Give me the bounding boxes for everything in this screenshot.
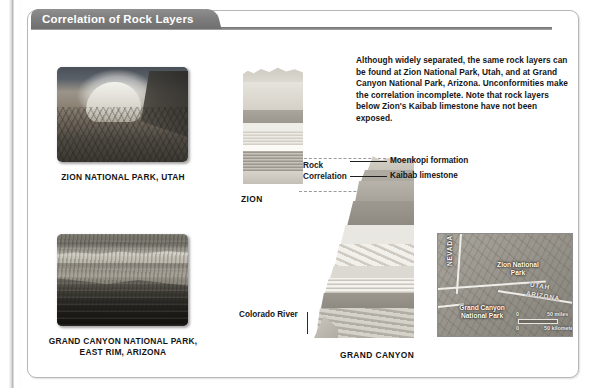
map-label-arizona: ARIZONA [526,289,561,301]
scale-bar [518,319,558,324]
zion-strata-layer-2 [243,110,303,123]
map-label-grand-canyon-national-park: Grand Canyon National Park [446,304,518,320]
zion-diagram-label: ZION [241,194,263,204]
scale-km-start: 0 [516,325,519,331]
locator-map: NEVADA Zion National Park Grand Canyon N… [437,233,573,337]
callout-moenkopi-formation: Moenkopi formation [390,156,468,165]
caption-zion-photo: ZION NATIONAL PARK, UTAH [42,172,204,183]
moenkopi-leader-line [350,161,387,162]
colorado-river-leader-line [307,312,308,334]
page-title: Correlation of Rock Layers [42,13,194,25]
page-binding-edge [0,0,22,388]
gc-strata-layer-4 [316,225,414,245]
zion-strata-layer-3 [243,123,303,131]
caption-grand-canyon-photo: GRAND CANYON NATIONAL PARK, EAST RIM, AR… [42,336,204,358]
zion-photo-texture [57,107,188,162]
map-label-nevada: NEVADA [446,235,454,266]
zion-strata-layer-1 [243,82,303,110]
zion-strata-layer-kaibab [243,171,303,184]
intro-paragraph: Although widely separated, the same rock… [356,55,572,125]
scale-km-end: 50 kilometers [544,325,573,331]
grand-canyon-photo-art [57,234,188,326]
gc-strata-layer-5 [316,244,414,266]
zion-strata-column [243,66,303,184]
callout-kaibab-limestone: Kaibab limestone [390,171,458,180]
gc-strata-layer-7 [316,278,414,293]
scale-miles-start: 0 [516,311,519,317]
photo-zion-national-park [57,67,188,162]
gc-strata-layer-3 [316,201,414,225]
grand-canyon-photo-texture [57,234,188,326]
page-binding-line [12,0,13,388]
kaibab-leader-line [350,176,387,177]
panel-title-tab: Correlation of Rock Layers [31,9,210,29]
zion-strata-layer-4 [243,131,303,145]
photo-grand-canyon-national-park [57,234,188,326]
colorado-river-label: Colorado River [239,310,298,319]
zion-strata-layer-6 [243,151,303,171]
grand-canyon-diagram-label: GRAND CANYON [340,350,414,360]
gc-strata-layer-2 [316,181,414,201]
scale-miles-end: 50 miles [547,311,568,317]
gc-strata-layer-8 [316,293,414,309]
gc-strata-layer-6 [316,266,414,279]
zion-photo-art [57,67,188,162]
map-label-zion-national-park: Zion National Park [490,261,546,277]
map-label-utah: UTAH [530,280,551,290]
grand-canyon-strata-column [316,156,414,338]
map-border-nevada-west [456,234,462,294]
